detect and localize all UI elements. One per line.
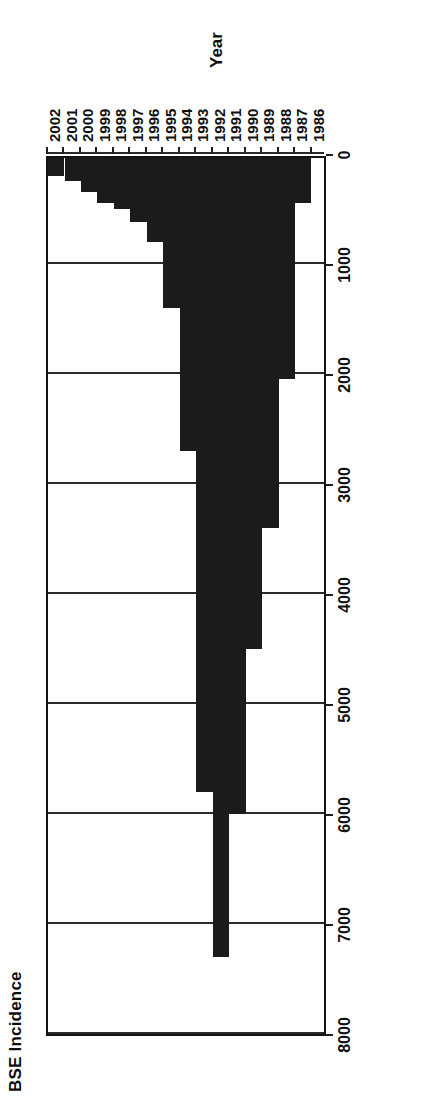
bar-fill-1989	[262, 158, 278, 528]
value-tick-3000	[326, 484, 333, 486]
bar-fill-1998	[114, 158, 130, 209]
category-tick-1993	[194, 147, 196, 154]
value-axis-title: BSE Incidence	[6, 971, 26, 1092]
bar-fill-1996	[147, 158, 163, 242]
bar-1990	[246, 158, 262, 649]
rotated-figure-wrapper: BSE Incidence 80007000600050004000300020…	[0, 0, 434, 1098]
category-tick-1986	[310, 147, 312, 154]
gridline-4000	[48, 592, 324, 594]
plot-area	[46, 156, 326, 1036]
value-tick-1000	[326, 264, 333, 266]
category-label-2001: 2001	[62, 109, 79, 142]
bar-fill-1993	[196, 158, 212, 792]
bar-1991	[229, 158, 245, 814]
category-label-1990: 1990	[243, 109, 260, 142]
value-tick-label-3000: 3000	[336, 467, 354, 503]
category-tick-1998	[112, 147, 114, 154]
category-label-1993: 1993	[194, 109, 211, 142]
value-tick-label-5000: 5000	[336, 687, 354, 723]
bar-fill-1994	[180, 158, 196, 451]
bar-1999	[97, 158, 113, 204]
category-tick-2001	[62, 147, 64, 154]
bse-incidence-bar-chart: BSE Incidence 80007000600050004000300020…	[0, 0, 434, 1098]
category-label-1996: 1996	[145, 109, 162, 142]
bar-1998	[114, 158, 130, 209]
category-tick-1999	[95, 147, 97, 154]
bar-fill-1991	[229, 158, 245, 814]
category-tick-1992	[211, 147, 213, 154]
value-tick-5000	[326, 704, 333, 706]
category-tick-1987	[293, 147, 295, 154]
value-tick-6000	[326, 814, 333, 816]
bar-1993	[196, 158, 212, 792]
gridline-5000	[48, 702, 324, 704]
bar-1987	[295, 158, 311, 204]
category-label-2000: 2000	[79, 109, 96, 142]
category-label-1986: 1986	[309, 109, 326, 142]
gridline-7000	[48, 922, 324, 924]
bar-fill-1995	[163, 158, 179, 308]
bar-1994	[180, 158, 196, 451]
value-tick-label-4000: 4000	[336, 577, 354, 613]
category-label-1991: 1991	[227, 109, 244, 142]
bar-fill-1987	[295, 158, 311, 204]
category-label-1994: 1994	[178, 109, 195, 142]
value-tick-label-8000: 8000	[336, 1017, 354, 1053]
category-label-1987: 1987	[293, 109, 310, 142]
bar-1995	[163, 158, 179, 308]
value-tick-2000	[326, 374, 333, 376]
bar-fill-1990	[246, 158, 262, 649]
bar-2002	[48, 158, 64, 176]
value-tick-label-1000: 1000	[336, 247, 354, 283]
category-tick-1989	[260, 147, 262, 154]
value-tick-7000	[326, 924, 333, 926]
value-tick-8000	[326, 1034, 333, 1036]
category-label-1997: 1997	[128, 109, 145, 142]
category-tick-1990	[244, 147, 246, 154]
value-tick-label-0: 0	[336, 151, 354, 160]
bar-1996	[147, 158, 163, 242]
bar-fill-1992	[213, 158, 229, 957]
category-tick-1991	[227, 147, 229, 154]
category-tick-1994	[178, 147, 180, 154]
value-tick-label-2000: 2000	[336, 357, 354, 393]
category-tick-1996	[145, 147, 147, 154]
bar-fill-1988	[279, 158, 295, 380]
bar-1988	[279, 158, 295, 380]
bar-2000	[81, 158, 97, 193]
bar-fill-1999	[97, 158, 113, 204]
bar-2001	[65, 158, 81, 182]
bar-1992	[213, 158, 229, 957]
category-label-1989: 1989	[260, 109, 277, 142]
gridline-0	[48, 152, 324, 154]
category-tick-1995	[161, 147, 163, 154]
category-tick-2002	[46, 147, 48, 154]
bar-fill-1997	[130, 158, 146, 222]
gridline-8000	[48, 1032, 324, 1034]
value-tick-0	[326, 154, 333, 156]
gridline-3000	[48, 482, 324, 484]
value-tick-label-7000: 7000	[336, 907, 354, 943]
value-tick-label-6000: 6000	[336, 797, 354, 833]
category-label-2002: 2002	[46, 109, 63, 142]
gridline-6000	[48, 812, 324, 814]
bar-fill-2000	[81, 158, 97, 193]
value-tick-4000	[326, 594, 333, 596]
category-tick-2000	[79, 147, 81, 154]
category-tick-1988	[277, 147, 279, 154]
bar-1989	[262, 158, 278, 528]
bar-fill-2001	[65, 158, 81, 182]
bar-1997	[130, 158, 146, 222]
category-label-1988: 1988	[276, 109, 293, 142]
category-label-1999: 1999	[95, 109, 112, 142]
category-tick-1997	[128, 147, 130, 154]
category-label-1998: 1998	[112, 109, 129, 142]
category-label-1992: 1992	[210, 109, 227, 142]
category-label-1995: 1995	[161, 109, 178, 142]
bar-fill-2002	[48, 158, 64, 176]
category-axis-title: Year	[207, 32, 227, 68]
